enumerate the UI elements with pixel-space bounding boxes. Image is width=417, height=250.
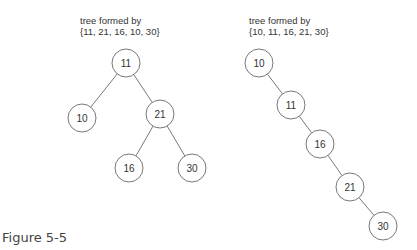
left-tree: 1110211630 — [68, 49, 206, 182]
node-label: 11 — [121, 58, 132, 69]
tree-edge — [267, 74, 282, 94]
node-label: 30 — [377, 221, 389, 232]
node-label: 21 — [154, 109, 166, 120]
tree-edge — [359, 198, 374, 216]
tree-diagram: 11102116301011162130 — [0, 0, 417, 250]
node-label: 11 — [286, 100, 297, 111]
node-label: 16 — [123, 163, 135, 174]
tree-edge — [299, 116, 311, 133]
node-label: 10 — [253, 58, 265, 69]
tree-edge — [91, 74, 118, 107]
tree-edge — [328, 155, 342, 175]
node-label: 10 — [76, 113, 88, 124]
figure-label: Figure 5-5 — [2, 230, 67, 245]
tree-edge — [167, 126, 185, 156]
node-label: 16 — [314, 139, 326, 150]
tree-edge — [134, 75, 152, 103]
right-tree: 1011162130 — [245, 49, 397, 240]
node-label: 21 — [344, 182, 356, 193]
node-label: 30 — [186, 163, 198, 174]
tree-edge — [136, 126, 153, 156]
